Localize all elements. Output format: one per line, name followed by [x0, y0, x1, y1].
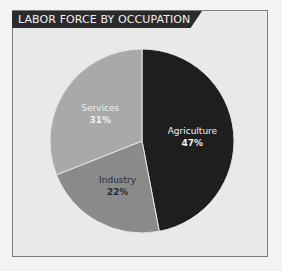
slice-value-industry: 22% — [107, 187, 129, 197]
slice-label-services: Services — [81, 103, 119, 113]
pie-chart: Agriculture47%Industry22%Services31% — [0, 0, 282, 271]
slice-label-industry: Industry — [99, 175, 137, 185]
slice-value-services: 31% — [89, 115, 111, 125]
slice-value-agriculture: 47% — [182, 138, 204, 148]
slice-label-agriculture: Agriculture — [168, 126, 218, 136]
